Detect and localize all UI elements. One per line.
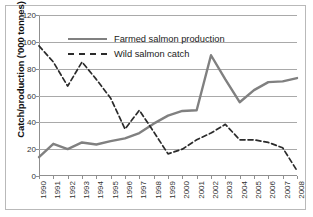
x-tick-label: 1996 — [125, 181, 134, 199]
x-tick-mark — [211, 176, 212, 179]
x-tick-label: 2006 — [268, 181, 277, 199]
x-tick-label: 2007 — [282, 181, 291, 199]
x-tick-mark — [197, 176, 198, 179]
x-tick-label: 2008 — [297, 181, 306, 199]
chart-legend: Farmed salmon productionWild salmon catc… — [68, 31, 225, 61]
series-line — [39, 46, 297, 171]
x-tick-label: 1992 — [67, 181, 76, 199]
x-tick-mark — [111, 176, 112, 179]
legend-label: Farmed salmon production — [114, 34, 225, 44]
legend-label: Wild salmon catch — [114, 49, 189, 59]
x-tick-mark — [225, 176, 226, 179]
x-tick-label: 1991 — [53, 181, 62, 199]
x-tick-label: 2001 — [196, 181, 205, 199]
x-tick-mark — [39, 176, 40, 179]
y-tick-label: 60 — [27, 91, 36, 100]
y-tick-label: 100 — [23, 37, 36, 46]
x-tick-label: 1998 — [153, 181, 162, 199]
y-tick-label: 120 — [23, 11, 36, 20]
x-tick-label: 1994 — [96, 181, 105, 199]
legend-item[interactable]: Farmed salmon production — [68, 31, 225, 46]
x-tick-label: 1993 — [82, 181, 91, 199]
legend-swatch-icon — [68, 38, 107, 40]
y-tick-label: 80 — [27, 64, 36, 73]
x-tick-label: 2002 — [211, 181, 220, 199]
x-tick-label: 2003 — [225, 181, 234, 199]
x-tick-mark — [82, 176, 83, 179]
y-tick-label: 0 — [32, 172, 36, 181]
x-tick-mark — [139, 176, 140, 179]
y-tick-label: 20 — [27, 145, 36, 154]
x-tick-mark — [154, 176, 155, 179]
x-tick-mark — [182, 176, 183, 179]
x-tick-mark — [254, 176, 255, 179]
x-tick-mark — [268, 176, 269, 179]
y-tick-label: 40 — [27, 118, 36, 127]
x-tick-label: 2005 — [254, 181, 263, 199]
x-tick-mark — [168, 176, 169, 179]
x-tick-label: 1999 — [168, 181, 177, 199]
x-tick-mark — [240, 176, 241, 179]
x-tick-mark — [96, 176, 97, 179]
x-tick-mark — [68, 176, 69, 179]
x-tick-mark — [283, 176, 284, 179]
x-tick-label: 1997 — [139, 181, 148, 199]
x-tick-label: 1995 — [110, 181, 119, 199]
chart-frame: Catch/production ('000 tonnes) 020406080… — [5, 5, 306, 210]
x-tick-mark — [297, 176, 298, 179]
x-tick-mark — [53, 176, 54, 179]
x-tick-label: 2000 — [182, 181, 191, 199]
x-tick-label: 2004 — [239, 181, 248, 199]
x-tick-mark — [125, 176, 126, 179]
legend-swatch-icon — [68, 53, 107, 55]
legend-item[interactable]: Wild salmon catch — [68, 46, 225, 61]
y-axis-title: Catch/production ('000 tonnes) — [15, 0, 26, 140]
x-tick-label: 1990 — [39, 181, 48, 199]
